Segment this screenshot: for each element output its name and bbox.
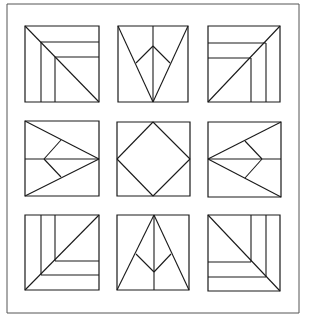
tile-line: [25, 159, 99, 196]
tile-line: [208, 159, 281, 197]
tile-center-diamond: [117, 122, 190, 196]
tile-line: [136, 46, 153, 63]
tile-line: [153, 26, 188, 102]
tile-middle-left-arrow-right: [25, 121, 99, 196]
tile-line: [245, 141, 262, 159]
tile-line: [154, 215, 189, 290]
tile-border: [117, 215, 189, 290]
tile-line: [208, 122, 281, 159]
tile-line: [118, 26, 153, 102]
tile-line: [154, 254, 171, 272]
tile-line: [245, 159, 262, 178]
tile-line: [25, 121, 99, 159]
tile-line: [208, 26, 280, 102]
tile-grid: [25, 26, 281, 291]
tile-bottom-left-corner-steps: [25, 215, 99, 290]
tile-border: [117, 122, 190, 196]
tile-line: [117, 122, 153, 159]
tile-line: [153, 46, 170, 63]
tile-line: [117, 215, 154, 290]
tile-top-center-arrow-down: [118, 26, 188, 102]
tile-line: [44, 159, 61, 177]
tile-line: [153, 122, 190, 159]
tile-line: [25, 26, 99, 102]
tile-line: [208, 215, 280, 291]
tile-line: [117, 159, 153, 196]
tile-bottom-center-arrow-up: [117, 215, 189, 290]
quilt-block-diagram: [0, 0, 309, 324]
tile-top-left-corner-steps: [25, 26, 99, 102]
tile-top-right-corner-steps: [208, 26, 280, 102]
tile-line: [136, 254, 154, 272]
tile-middle-right-arrow-left: [208, 122, 281, 197]
tile-line: [153, 159, 190, 196]
tile-line: [44, 140, 61, 159]
tile-line: [25, 215, 99, 290]
tile-bottom-right-corner-steps: [208, 215, 280, 291]
